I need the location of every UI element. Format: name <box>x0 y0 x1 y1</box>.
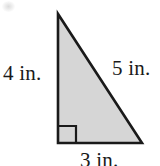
hypotenuse-length-label: 5 in. <box>112 58 150 79</box>
right-triangle-figure: 4 in. 5 in. 3 in. <box>0 0 160 166</box>
bottom-leg-length-label: 3 in. <box>80 150 118 166</box>
left-leg-length-label: 4 in. <box>3 63 41 84</box>
